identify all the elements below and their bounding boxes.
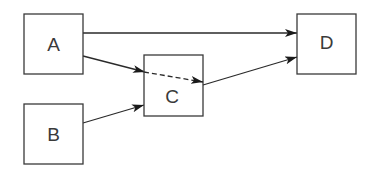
node-a-label: A [47,34,60,55]
node-c: C [144,55,203,116]
edge-c-to-d [203,57,297,85]
node-a: A [24,14,83,74]
node-b: B [24,104,83,164]
node-d: D [297,14,356,74]
node-c-label: C [165,86,179,107]
node-b-label: B [47,124,60,145]
node-d-label: D [320,32,334,53]
diagram-canvas: A B C D [0,0,379,174]
edge-a-to-c [83,56,145,72]
edge-b-to-c [83,105,144,123]
